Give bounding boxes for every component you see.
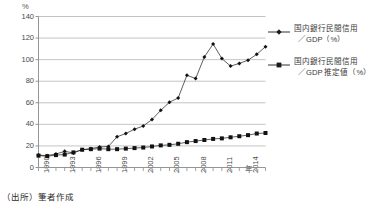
legend-label-series-2-line1: 国内銀行民間信用 (294, 57, 358, 66)
legend-label-series-1: 国内銀行民間信用 ／GDP（%） (294, 24, 388, 45)
legend-label-series-1-line2: ／GDP（%） (294, 35, 388, 46)
chart-figure: % 020406080100120140 1990199319961999200… (0, 0, 388, 207)
legend-marker-diamond-icon (268, 28, 290, 36)
legend-entry-series-1: 国内銀行民間信用 ／GDP（%） (268, 24, 388, 45)
gridlines (39, 17, 266, 146)
x-axis-tickmarks (39, 168, 266, 172)
legend-label-series-1-line1: 国内銀行民間信用 (294, 24, 358, 33)
legend-label-series-2-line2: ／GDP 推定値（%） (294, 68, 388, 79)
legend-marker-square-icon (268, 61, 290, 69)
legend-label-series-2: 国内銀行民間信用 ／GDP 推定値（%） (294, 57, 388, 78)
chart-legend: 国内銀行民間信用 ／GDP（%） 国内銀行民間信用 ／GDP 推定値（%） (268, 24, 388, 90)
source-note: （出所）筆者作成 (2, 190, 74, 202)
series-line-domestic-bank-credit-gdp-estimate (37, 131, 268, 158)
legend-entry-series-2: 国内銀行民間信用 ／GDP 推定値（%） (268, 57, 388, 78)
chart-canvas: % 020406080100120140 1990199319961999200… (0, 0, 388, 207)
